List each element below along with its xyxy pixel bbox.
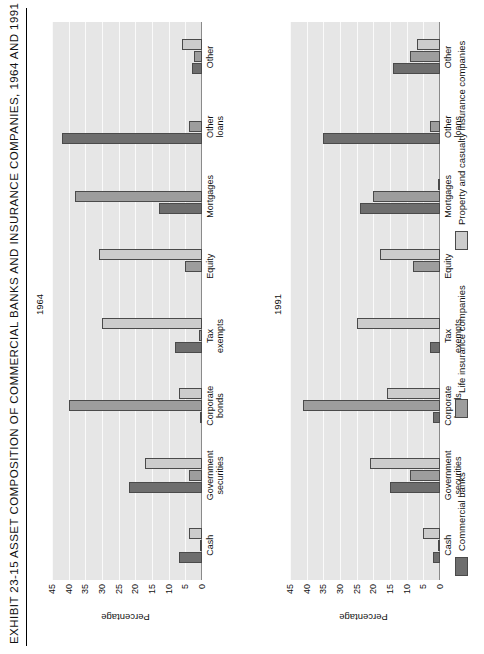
exhibit-page: EXHIBIT 23-15 ASSET COMPOSITION OF COMME… [0,0,484,654]
category-label-line: bonds [215,369,225,443]
bar-cash-life-insurance-companies [438,540,440,551]
bar-other-loans-commercial-banks [323,133,440,144]
bar-mortgages-life-insurance-companies [75,191,202,202]
legend-swatch-icon [455,231,468,250]
y-axis-tick: 45 [47,584,57,606]
y-axis-tick: 0 [435,584,445,606]
figure: EXHIBIT 23-15 ASSET COMPOSITION OF COMME… [0,0,484,654]
bar-government-securities-commercial-banks [390,482,440,493]
exhibit-title: EXHIBIT 23-15 ASSET COMPOSITION OF COMME… [8,10,20,644]
bar-government-securities-life-insurance-companies [189,470,202,481]
bar-mortgages-property-and-casualty-insurance-companies [438,179,440,190]
y-axis-tick: 0 [197,584,207,606]
bar-government-securities-property-and-casualty-insurance-companies [145,458,202,469]
category-label-line: Equity [205,229,215,303]
y-axis-tick: 25 [352,584,362,606]
category-label-mortgages: Mortgages [443,159,453,233]
bar-government-securities-commercial-banks [129,482,202,493]
bar-government-securities-life-insurance-companies [410,470,440,481]
category-label-equity: Equity [205,229,215,303]
y-axis-tick: 20 [368,584,378,606]
legend-item-commercial-banks[interactable]: Commercial banks [455,472,468,576]
bar-group-mortgages [290,162,440,232]
bar-corporate-bonds-commercial-banks [200,412,202,423]
category-label-other: Other [205,20,215,94]
legend-item-life-insurance-companies[interactable]: Life insurance companies [455,285,468,418]
y-axis-tick: 15 [385,584,395,606]
bar-cash-commercial-banks [179,552,202,563]
category-label-line: Other [205,20,215,94]
bar-tax-exempts-property-and-casualty-insurance-companies [102,318,202,329]
bar-group-equity [52,231,202,301]
legend-label: Property and casualty insurance companie… [456,41,467,225]
legend-swatch-icon [455,557,468,576]
y-axis-tick: 40 [302,584,312,606]
bar-equity-life-insurance-companies [413,261,440,272]
legend-label: Life insurance companies [456,285,467,393]
y-axis-tick: 25 [114,584,124,606]
bar-tax-exempts-life-insurance-companies [199,330,202,341]
category-label-line: Other [205,90,215,164]
category-label-line: Equity [443,229,453,303]
bar-group-corporate-bonds [52,371,202,441]
y-axis-tick: 40 [64,584,74,606]
bar-mortgages-commercial-banks [360,203,440,214]
bar-corporate-bonds-commercial-banks [433,412,440,423]
y-axis-tick: 5 [418,584,428,606]
bar-other-commercial-banks [192,63,202,74]
category-label-line: exempts [215,299,225,373]
legend-swatch-icon [455,399,468,418]
bar-other-life-insurance-companies [194,51,202,62]
bar-other-commercial-banks [393,63,440,74]
bar-mortgages-commercial-banks [159,203,202,214]
bar-group-other-loans [52,92,202,162]
panel-label-1964: 1964 [34,294,45,315]
bar-group-corporate-bonds [290,371,440,441]
legend-item-property-and-casualty-insurance-companies[interactable]: Property and casualty insurance companie… [455,41,468,250]
bar-group-mortgages [52,162,202,232]
category-label-line: Cash [205,508,215,582]
y-axis-title: Percentage [327,612,401,623]
y-axis-tick: 10 [402,584,412,606]
bar-group-government-securities [290,441,440,511]
bar-corporate-bonds-life-insurance-companies [69,400,202,411]
category-label-line: Cash [443,508,453,582]
title-divider [26,8,27,646]
bar-group-equity [290,231,440,301]
bar-government-securities-property-and-casualty-insurance-companies [370,458,440,469]
y-axis-tick: 15 [147,584,157,606]
legend-label: Commercial banks [456,472,467,551]
category-label-line: securities [215,438,225,512]
bar-mortgages-life-insurance-companies [373,191,440,202]
bar-tax-exempts-commercial-banks [430,342,440,353]
category-label-corporate-bonds: Corporatebonds [205,369,225,443]
bar-group-other-loans [290,92,440,162]
bar-other-property-and-casualty-insurance-companies [417,39,440,50]
category-label-line: Corporate [205,369,215,443]
category-label-line: Tax [443,299,453,373]
plot-area-1964: 051015202530354045CashGovernmentsecuriti… [52,22,202,580]
bar-group-cash [290,510,440,580]
category-label-other-loans: Otherloans [205,90,225,164]
panel-label-1991: 1991 [272,294,283,315]
y-axis-tick: 35 [318,584,328,606]
bar-group-tax-exempts [290,301,440,371]
bar-corporate-bonds-life-insurance-companies [303,400,440,411]
category-label-tax-exempts: Taxexempts [205,299,225,373]
category-label-mortgages: Mortgages [205,159,215,233]
category-label-line: Mortgages [205,159,215,233]
bar-tax-exempts-commercial-banks [175,342,202,353]
bar-cash-property-and-casualty-insurance-companies [189,528,202,539]
bar-other-loans-life-insurance-companies [189,121,202,132]
y-axis-tick: 45 [285,584,295,606]
bar-other-property-and-casualty-insurance-companies [182,39,202,50]
category-label-government-securities: Governmentsecurities [205,438,225,512]
category-label-line: Tax [205,299,215,373]
category-label-line: Government [205,438,215,512]
bar-equity-property-and-casualty-insurance-companies [99,249,202,260]
y-axis-tick: 5 [180,584,190,606]
category-label-other: Other [443,20,453,94]
y-axis-tick: 35 [80,584,90,606]
y-axis-tick: 30 [97,584,107,606]
bar-group-cash [52,510,202,580]
